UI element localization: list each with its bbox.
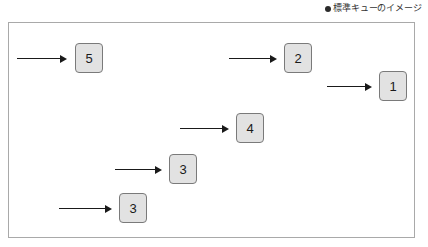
diagram-caption: 標準キューのイメージ <box>325 4 422 13</box>
queue-message-box: 5 <box>75 43 103 73</box>
message-arrow-icon <box>229 54 277 63</box>
queue-message-label: 1 <box>389 79 396 94</box>
arrow-head <box>105 205 112 213</box>
queue-message-label: 2 <box>294 51 301 66</box>
message-arrow-icon <box>180 124 229 133</box>
queue-message-box: 3 <box>169 154 197 184</box>
bullet-icon <box>325 6 331 12</box>
message-arrow-icon <box>115 165 162 174</box>
queue-message-box: 2 <box>284 43 312 73</box>
arrow-head <box>365 83 372 91</box>
arrow-shaft <box>229 58 271 59</box>
queue-diagram-frame: 521433 <box>8 22 415 238</box>
queue-message-label: 3 <box>129 201 136 216</box>
message-arrow-icon <box>327 82 372 91</box>
arrow-shaft <box>17 58 61 59</box>
queue-message-label: 3 <box>179 162 186 177</box>
queue-message-box: 4 <box>236 113 264 143</box>
arrow-head <box>60 55 67 63</box>
queue-message-box: 1 <box>379 71 407 101</box>
queue-message-box: 3 <box>119 193 147 223</box>
queue-message-label: 4 <box>246 121 253 136</box>
message-arrow-icon <box>17 54 67 63</box>
arrow-shaft <box>115 169 156 170</box>
arrow-head <box>222 125 229 133</box>
queue-message-label: 5 <box>85 51 92 66</box>
diagram-caption-label: 標準キューのイメージ <box>333 4 422 13</box>
arrow-head <box>270 55 277 63</box>
arrow-shaft <box>59 208 106 209</box>
message-arrow-icon <box>59 204 112 213</box>
arrow-shaft <box>180 128 223 129</box>
arrow-shaft <box>327 86 366 87</box>
arrow-head <box>155 166 162 174</box>
